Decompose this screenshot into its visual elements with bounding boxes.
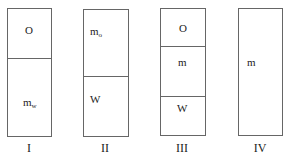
column-iii-divider-1 [161,46,205,47]
column-iii-box: O m W [160,8,206,136]
column-ii-label-mo: mo [90,26,102,41]
column-iv-box: m [238,8,283,136]
column-iii-numeral: III [160,141,204,155]
column-i-numeral: I [7,141,51,155]
column-iv-label-m: m [247,57,256,68]
column-ii-label-w: W [90,94,100,105]
column-iv-numeral: IV [238,141,282,155]
column-iii-divider-2 [161,96,205,97]
column-i-divider [8,58,51,59]
column-i-label-o: O [25,25,33,36]
column-i-box: O mw [7,8,52,137]
column-ii-divider [84,76,128,77]
column-iii-label-m: m [178,57,187,68]
column-ii-box: mo W [83,9,129,137]
column-iii-label-w: W [177,103,187,114]
column-iii-label-o: O [179,23,187,34]
column-ii-numeral: II [83,141,127,155]
column-i-label-mw: mw [23,97,37,112]
